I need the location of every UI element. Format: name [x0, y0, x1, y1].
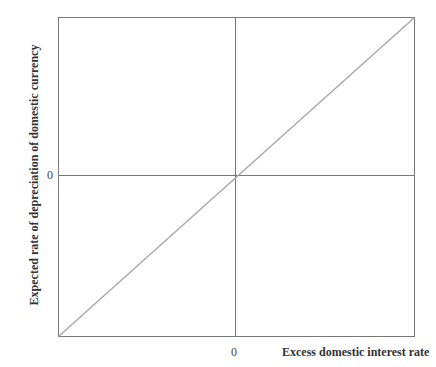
y-axis-label: Expected rate of depreciation of domesti…: [27, 25, 43, 325]
y-tick-zero: 0: [47, 168, 53, 183]
chart-plot-area: [0, 0, 436, 367]
diagonal-line: [59, 18, 415, 337]
x-axis-label: Excess domestic interest rate: [282, 345, 429, 360]
x-tick-zero: 0: [231, 345, 237, 360]
